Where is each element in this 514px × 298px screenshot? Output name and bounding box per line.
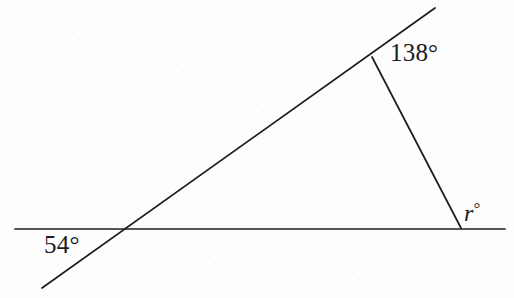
slanted-transversal-line — [42, 8, 435, 288]
degree-symbol: ° — [474, 199, 481, 218]
angle-label-138: 138° — [390, 40, 438, 65]
geometry-diagram: 138° 54° r° — [0, 0, 514, 298]
paper-speck — [182, 70, 184, 72]
paper-speck — [352, 272, 354, 274]
paper-speck — [78, 38, 80, 40]
triangle-right-side-segment — [372, 57, 461, 228]
paper-speck — [402, 192, 404, 194]
paper-speck — [256, 104, 258, 106]
angle-label-r: r° — [464, 200, 481, 225]
paper-speck — [118, 178, 120, 180]
paper-speck — [330, 145, 332, 147]
angle-label-r-variable: r — [464, 200, 474, 226]
angle-label-54: 54° — [44, 232, 80, 257]
paper-speck — [214, 262, 216, 264]
